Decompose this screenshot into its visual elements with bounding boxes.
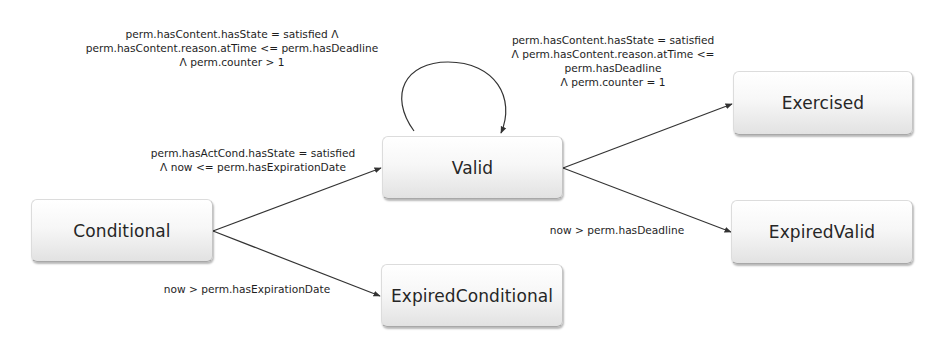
label-line: perm.hasActCond.hasState = satisfied <box>128 146 378 160</box>
label-line: perm.hasContent.reason.atTime <= perm.ha… <box>82 41 382 55</box>
label-valid-to-exercised: perm.hasContent.hasState = satisfied Λ p… <box>493 33 733 89</box>
state-valid: Valid <box>382 136 563 199</box>
state-label: Conditional <box>73 221 170 241</box>
label-line: Λ perm.counter = 1 <box>493 75 733 89</box>
state-exercised: Exercised <box>733 71 913 135</box>
label-line: Λ now <= perm.hasExpirationDate <box>128 160 378 174</box>
state-conditional: Conditional <box>31 199 213 262</box>
label-line: Λ perm.counter > 1 <box>82 55 382 69</box>
label-valid-to-expired-valid: now > perm.hasDeadline <box>532 223 702 237</box>
label-line: perm.hasDeadline <box>493 61 733 75</box>
state-diagram: Conditional Valid ExpiredConditional Exe… <box>0 0 945 348</box>
edge-valid-to-exercised <box>563 104 732 168</box>
label-valid-self-loop: perm.hasContent.hasState = satisfied Λ p… <box>82 27 382 69</box>
label-line: perm.hasContent.hasState = satisfied <box>493 33 733 47</box>
state-label: Exercised <box>782 93 864 113</box>
state-label: ExpiredValid <box>769 222 875 242</box>
state-label: Valid <box>452 158 493 178</box>
label-line: now > perm.hasExpirationDate <box>142 282 352 296</box>
label-conditional-to-valid: perm.hasActCond.hasState = satisfied Λ n… <box>128 146 378 174</box>
state-expired-valid: ExpiredValid <box>731 200 913 264</box>
state-label: ExpiredConditional <box>391 286 553 306</box>
label-line: now > perm.hasDeadline <box>532 223 702 237</box>
label-line: Λ perm.hasContent.reason.atTime <= <box>493 47 733 61</box>
edge-conditional-to-valid <box>213 168 381 231</box>
state-expired-conditional: ExpiredConditional <box>381 264 563 327</box>
edge-valid-self-loop <box>402 62 506 133</box>
label-conditional-to-expired-conditional: now > perm.hasExpirationDate <box>142 282 352 296</box>
label-line: perm.hasContent.hasState = satisfied Λ <box>82 27 382 41</box>
